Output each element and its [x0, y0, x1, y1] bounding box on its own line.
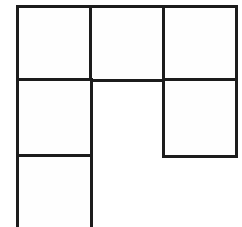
cell-row1-col3	[162, 5, 238, 82]
cell-row2-col1	[16, 78, 93, 158]
cell-row2-col3	[162, 78, 238, 158]
grid-diagram	[0, 0, 242, 227]
cell-row1-col2	[89, 5, 166, 82]
cell-row3-col1	[16, 154, 93, 227]
cell-row1-col1	[16, 5, 93, 82]
